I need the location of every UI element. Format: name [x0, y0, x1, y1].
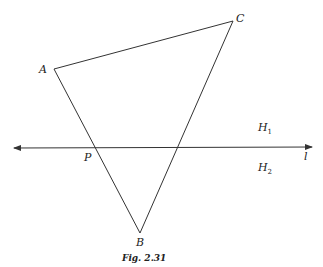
label-h1: H1 — [257, 121, 272, 136]
triangle-abc — [54, 21, 233, 233]
figure-canvas: A C P B l H1 H2 Fig. 2.31 — [0, 0, 323, 267]
label-b: B — [135, 236, 144, 249]
label-l: l — [304, 150, 308, 163]
label-a: A — [38, 63, 47, 76]
label-h2: H2 — [257, 161, 272, 176]
label-c: C — [236, 12, 245, 25]
label-p: P — [83, 151, 92, 164]
line-l — [14, 147, 312, 148]
figure-caption: Fig. 2.31 — [121, 253, 166, 263]
